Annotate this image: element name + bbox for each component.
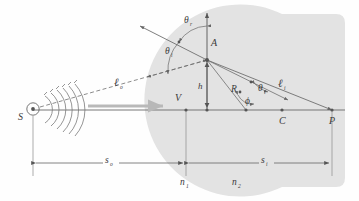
svg-text:1: 1 xyxy=(186,183,189,189)
source-symbol xyxy=(27,103,39,115)
label-source-S: S xyxy=(18,111,23,122)
label-height-h: h xyxy=(198,81,203,91)
svg-text:n: n xyxy=(180,177,185,187)
svg-text:n: n xyxy=(232,177,237,187)
wavefront-tick-marks xyxy=(44,80,77,95)
label-point-A: A xyxy=(210,37,218,48)
label-so: s o xyxy=(103,154,119,167)
svg-text:s: s xyxy=(261,155,265,165)
svg-text:θ: θ xyxy=(184,15,189,25)
svg-text:θ: θ xyxy=(165,46,170,56)
label-image-P: P xyxy=(328,115,335,126)
svg-text:ℓ: ℓ xyxy=(278,77,283,89)
label-ell-o: ℓ o xyxy=(114,76,123,90)
svg-text:2: 2 xyxy=(238,183,241,189)
svg-text:o: o xyxy=(110,161,113,167)
svg-text:s: s xyxy=(105,155,109,165)
svg-text:o: o xyxy=(120,84,123,90)
label-radius-R: R xyxy=(230,84,237,94)
svg-text:ℓ: ℓ xyxy=(114,76,119,88)
label-phi: ϕ xyxy=(245,96,250,106)
label-center-C: C xyxy=(279,115,286,126)
diagram-canvas: S A V C P h R ϕ θ r θ i θ t ℓ o ℓ i s o … xyxy=(0,0,359,201)
svg-text:θ: θ xyxy=(258,83,263,93)
optics-figure: S A V C P h R ϕ θ r θ i θ t ℓ o ℓ i s o … xyxy=(0,0,359,201)
